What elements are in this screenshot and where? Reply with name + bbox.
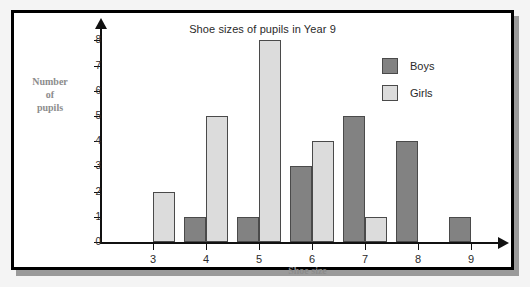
x-axis-tick-label: 7 [353, 253, 377, 265]
y-axis-tick-label-text: 3 [83, 160, 101, 171]
y-axis-tick-label: 7 [66, 60, 101, 72]
bar-girls-size-3 [153, 192, 175, 242]
x-axis-tick-label: 4 [194, 253, 218, 265]
legend-item-boys: Boys [382, 55, 492, 77]
x-axis-label: Shoe size [14, 265, 511, 276]
y-axis-tick-label: 4 [66, 135, 101, 147]
y-axis-arrow-icon [95, 18, 107, 29]
bar-girls-size-6 [312, 141, 334, 242]
bar-chart-plot: Shoe sizes of pupils in Year 9 Number of… [14, 13, 511, 267]
y-axis-tick-label-text: 1 [83, 211, 101, 222]
y-axis-tick-label: 3 [66, 160, 101, 172]
bar-boys-size-7 [343, 116, 365, 242]
x-axis-tick-label: 9 [459, 253, 483, 265]
y-axis-tick-label: 8 [66, 34, 101, 46]
y-axis-tick-label-text: 7 [83, 60, 101, 71]
x-axis-tick [259, 244, 260, 250]
y-axis-tick-label: 6 [66, 85, 101, 97]
x-axis-tick-label: 3 [141, 253, 165, 265]
bar-girls-size-7 [365, 217, 387, 242]
x-axis-tick [312, 244, 313, 250]
x-axis-tick-label: 6 [300, 253, 324, 265]
legend-label-boys: Boys [410, 60, 434, 72]
y-axis-tick-label: 5 [66, 110, 101, 122]
bar-boys-size-9 [449, 217, 471, 242]
y-axis-tick-label: 2 [66, 186, 101, 198]
chart-title: Shoe sizes of pupils in Year 9 [14, 23, 511, 35]
x-axis-tick [206, 244, 207, 250]
legend-item-girls: Girls [382, 82, 492, 104]
y-axis-tick-label-text: 6 [83, 85, 101, 96]
legend-label-girls: Girls [410, 87, 433, 99]
light-gray-swatch-icon [382, 85, 398, 101]
bar-boys-size-8 [396, 141, 418, 242]
y-axis-tick-label-text: 2 [83, 186, 101, 197]
x-axis-tick [153, 244, 154, 250]
y-axis-tick-label-text: 0 [83, 236, 101, 247]
figure-frame: Shoe sizes of pupils in Year 9 Number of… [11, 10, 514, 270]
screenshot-root: Shoe sizes of pupils in Year 9 Number of… [0, 0, 530, 287]
x-axis-tick [471, 244, 472, 250]
x-axis-arrow-icon [498, 237, 509, 249]
dark-gray-swatch-icon [382, 58, 398, 74]
y-axis-tick-label-text: 8 [83, 34, 101, 45]
x-axis-tick [418, 244, 419, 250]
bar-girls-size-4 [206, 116, 228, 242]
x-axis-tick-label: 5 [247, 253, 271, 265]
bar-girls-size-5 [259, 40, 281, 242]
x-axis-line [100, 242, 500, 244]
x-axis-tick-label: 8 [406, 253, 430, 265]
chart-legend: Boys Girls [382, 55, 492, 109]
bar-boys-size-4 [184, 217, 206, 242]
bar-boys-size-5 [237, 217, 259, 242]
y-axis-tick-label: 0 [66, 236, 101, 248]
x-axis-tick [365, 244, 366, 250]
bar-boys-size-6 [290, 166, 312, 242]
y-axis-tick-label-text: 5 [83, 110, 101, 121]
y-axis-tick-label: 1 [66, 211, 101, 223]
y-axis-tick-label-text: 4 [83, 135, 101, 146]
